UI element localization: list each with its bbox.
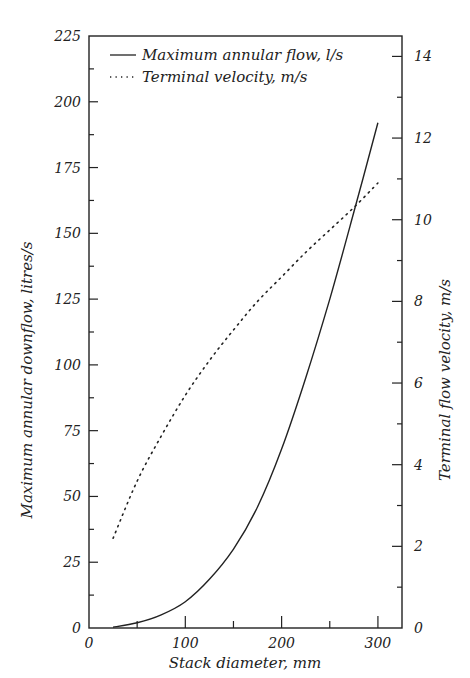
y-left-tick-label: 150 xyxy=(54,225,81,241)
y-right-tick-label: 4 xyxy=(413,457,423,473)
x-tick-label: 200 xyxy=(267,635,295,651)
y-right-tick-label: 6 xyxy=(414,375,423,391)
legend-label-terminal-velocity: Terminal velocity, m/s xyxy=(142,68,308,86)
y-left-tick-label: 75 xyxy=(63,423,81,439)
y-left-tick-label: 50 xyxy=(63,488,81,504)
y-left-axis-title: Maximum annular downflow, litres/s xyxy=(18,241,36,519)
y-right-tick-label: 8 xyxy=(414,293,423,309)
y-left-tick-label: 25 xyxy=(62,554,81,570)
y-right-tick-label: 0 xyxy=(414,620,423,636)
y-right-axis-title: Terminal flow velocity, m/s xyxy=(436,279,454,481)
y-right-tick-label: 10 xyxy=(414,212,432,228)
y-left-tick-label: 200 xyxy=(53,94,81,110)
y-right-tick-label: 12 xyxy=(414,130,432,146)
y-left-tick-label: 225 xyxy=(53,28,81,44)
chart: 0100200300025507510012515017520022502468… xyxy=(0,0,470,678)
ticks: 0100200300025507510012515017520022502468… xyxy=(53,28,432,651)
y-left-tick-label: 0 xyxy=(72,620,81,636)
legend-label-max-annular-flow: Maximum annular flow, l/s xyxy=(141,46,344,64)
terminal-velocity-line xyxy=(113,183,378,538)
legend: Maximum annular flow, l/s Terminal veloc… xyxy=(110,46,344,86)
plot-frame xyxy=(89,36,402,628)
y-right-tick-label: 14 xyxy=(414,48,432,64)
x-tick-label: 300 xyxy=(365,635,392,651)
x-tick-label: 100 xyxy=(172,635,199,651)
max-annular-flow-line xyxy=(113,123,378,627)
y-left-tick-label: 175 xyxy=(54,160,81,176)
y-right-tick-label: 2 xyxy=(413,538,423,554)
series xyxy=(113,123,378,627)
y-left-tick-label: 125 xyxy=(54,291,81,307)
x-axis-title: Stack diameter, mm xyxy=(169,654,321,672)
x-tick-label: 0 xyxy=(85,635,94,651)
axes xyxy=(89,36,402,628)
y-left-tick-label: 100 xyxy=(54,357,81,373)
